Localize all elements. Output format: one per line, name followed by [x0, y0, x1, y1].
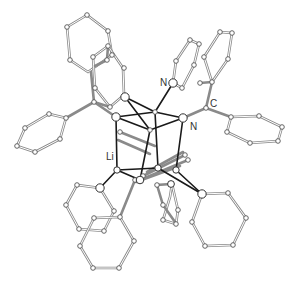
- label-c: C: [210, 98, 217, 109]
- molecule-svg: N N C Li: [0, 0, 295, 283]
- nitrogen-atom: [198, 190, 206, 198]
- nitrogen-atom: [96, 184, 104, 192]
- phenyl-ring-top-left-inner: [93, 46, 124, 107]
- label-li: Li: [106, 151, 114, 162]
- amidinate-carbon-bonds: [183, 82, 231, 118]
- nitrogen-atom-amidinate: [179, 114, 187, 122]
- phenyl-ring-left: [17, 114, 66, 152]
- nitrogen-atom-pyridyl: [169, 79, 177, 87]
- phenyl-ring-bottom-right-inner: [157, 184, 178, 224]
- nitrogen-atom: [112, 113, 120, 121]
- phenyl-ring-right: [227, 116, 282, 143]
- phenyl-ring-bottom-right: [192, 193, 246, 246]
- label-n-pyridyl: N: [160, 77, 167, 88]
- label-n-amidinate: N: [190, 121, 197, 132]
- heavy-atoms: [96, 79, 206, 198]
- lithium-atom: [114, 167, 120, 173]
- bond-top-left-c: [66, 72, 116, 118]
- phenyl-ring-top-left: [67, 15, 112, 72]
- carbon-atom: [168, 181, 175, 188]
- molecular-structure-figure: N N C Li: [0, 0, 295, 283]
- nitrogen-atom: [121, 93, 129, 101]
- lithium-atom: [155, 165, 161, 171]
- nitrogen-atom: [136, 176, 144, 184]
- lithium-atom: [173, 167, 179, 173]
